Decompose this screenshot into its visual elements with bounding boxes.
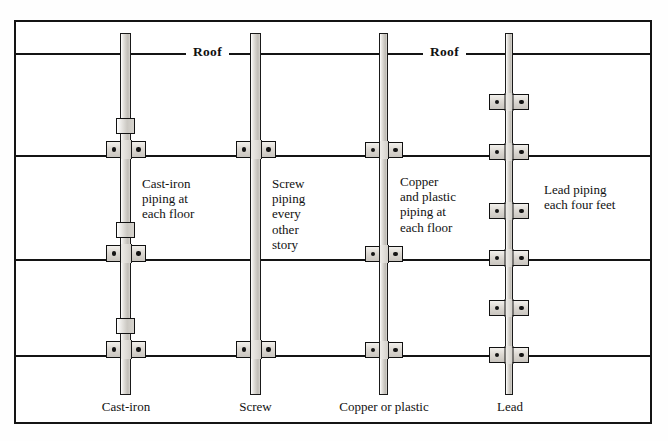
clamp-bolt-icon: [519, 353, 524, 358]
clamp-bolt-icon: [393, 252, 398, 257]
clamp-bolt-icon: [519, 100, 524, 105]
caption-copper-or-plastic: Copper or plastic: [325, 400, 443, 414]
clamp-bolt-icon: [495, 150, 500, 155]
clamp-bolt-icon: [371, 252, 376, 257]
clamp-lead-4: [489, 203, 529, 219]
hub-joint-cast-iron-top: [116, 118, 135, 134]
clamp-lead-3: [489, 250, 529, 266]
clamp-lead-5: [489, 144, 529, 160]
diagram-frame: [14, 20, 652, 424]
hub-joint-cast-iron-low: [116, 318, 135, 334]
clamp-bolt-icon: [495, 209, 500, 214]
caption-cast-iron: Cast-iron: [77, 400, 175, 414]
clamp-seat: [505, 202, 514, 220]
clamp-seat: [505, 299, 514, 317]
clamp-cast-iron-2: [106, 245, 146, 262]
diagram-canvas: Cast-iron piping at each floor Cast-iron…: [0, 0, 668, 441]
clamp-seat: [250, 140, 262, 159]
clamp-bolt-icon: [371, 148, 376, 153]
clamp-bolt-icon: [242, 147, 247, 152]
clamp-seat: [379, 245, 389, 263]
clamp-cast-iron-1: [106, 341, 146, 358]
caption-screw: Screw: [213, 400, 298, 414]
clamp-lead-1: [489, 347, 529, 363]
clamp-bolt-icon: [495, 256, 500, 261]
clamp-seat: [505, 143, 514, 161]
clamp-copper-3: [365, 142, 403, 158]
clamp-copper-2: [365, 246, 403, 262]
clamp-lead-2: [489, 300, 529, 316]
clamp-bolt-icon: [112, 251, 117, 256]
clamp-bolt-icon: [266, 347, 271, 352]
clamp-seat: [120, 244, 132, 263]
clamp-bolt-icon: [136, 147, 141, 152]
clamp-bolt-icon: [136, 251, 141, 256]
roof-label-left: Roof: [186, 44, 229, 59]
roof-label-right: Roof: [423, 44, 466, 59]
clamp-seat: [505, 346, 514, 364]
clamp-bolt-icon: [136, 347, 141, 352]
clamp-seat: [120, 140, 132, 159]
clamp-bolt-icon: [519, 256, 524, 261]
clamp-bolt-icon: [112, 347, 117, 352]
clamp-bolt-icon: [519, 306, 524, 311]
note-screw: Screw piping every other story: [272, 176, 305, 252]
clamp-bolt-icon: [371, 348, 376, 353]
clamp-bolt-icon: [495, 306, 500, 311]
clamp-seat: [250, 340, 262, 359]
clamp-bolt-icon: [393, 148, 398, 153]
note-cast-iron: Cast-iron piping at each floor: [142, 176, 194, 222]
clamp-bolt-icon: [519, 209, 524, 214]
clamp-bolt-icon: [495, 353, 500, 358]
clamp-bolt-icon: [519, 150, 524, 155]
clamp-bolt-icon: [242, 347, 247, 352]
clamp-screw-3: [236, 141, 276, 158]
note-lead: Lead piping each four feet: [544, 182, 615, 212]
clamp-bolt-icon: [112, 147, 117, 152]
clamp-seat: [379, 341, 389, 359]
clamp-seat: [379, 141, 389, 159]
clamp-bolt-icon: [393, 348, 398, 353]
clamp-lead-6: [489, 94, 529, 110]
clamp-screw-1: [236, 341, 276, 358]
clamp-bolt-icon: [495, 100, 500, 105]
clamp-seat: [505, 249, 514, 267]
clamp-copper-1: [365, 342, 403, 358]
hub-joint-cast-iron-mid: [116, 222, 135, 238]
clamp-seat: [120, 340, 132, 359]
clamp-cast-iron-3: [106, 141, 146, 158]
clamp-seat: [505, 93, 514, 111]
roof-line: [16, 53, 650, 55]
clamp-bolt-icon: [266, 147, 271, 152]
note-copper-or-plastic: Copper and plastic piping at each floor: [400, 174, 456, 235]
caption-lead: Lead: [470, 400, 550, 414]
